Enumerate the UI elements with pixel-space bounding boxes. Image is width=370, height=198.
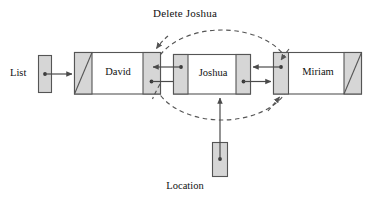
joshua-prev-field: [174, 55, 189, 95]
node-label-miriam: Miriam: [292, 67, 344, 78]
node-label-joshua: Joshua: [188, 68, 238, 79]
list-handle-node: [39, 56, 73, 93]
operation-caption: Delete Joshua: [0, 8, 370, 19]
location-handle-label: Location: [0, 181, 370, 192]
david-next-field: [143, 53, 161, 95]
list-handle-label: List: [10, 68, 26, 79]
joshua-next-field: [236, 55, 251, 95]
miriam-prev-field: [274, 53, 289, 95]
diagram-vector-layer: [0, 0, 370, 198]
location-handle-node: [213, 98, 228, 177]
rewire-arrowhead-into-david-next: [157, 36, 169, 49]
rewire-arrowhead-into-miriam-prev-bottom: [268, 97, 280, 111]
linked-list-delete-diagram: Delete Joshua List David Joshua Miriam L…: [0, 0, 370, 198]
node-label-david: David: [92, 67, 144, 78]
